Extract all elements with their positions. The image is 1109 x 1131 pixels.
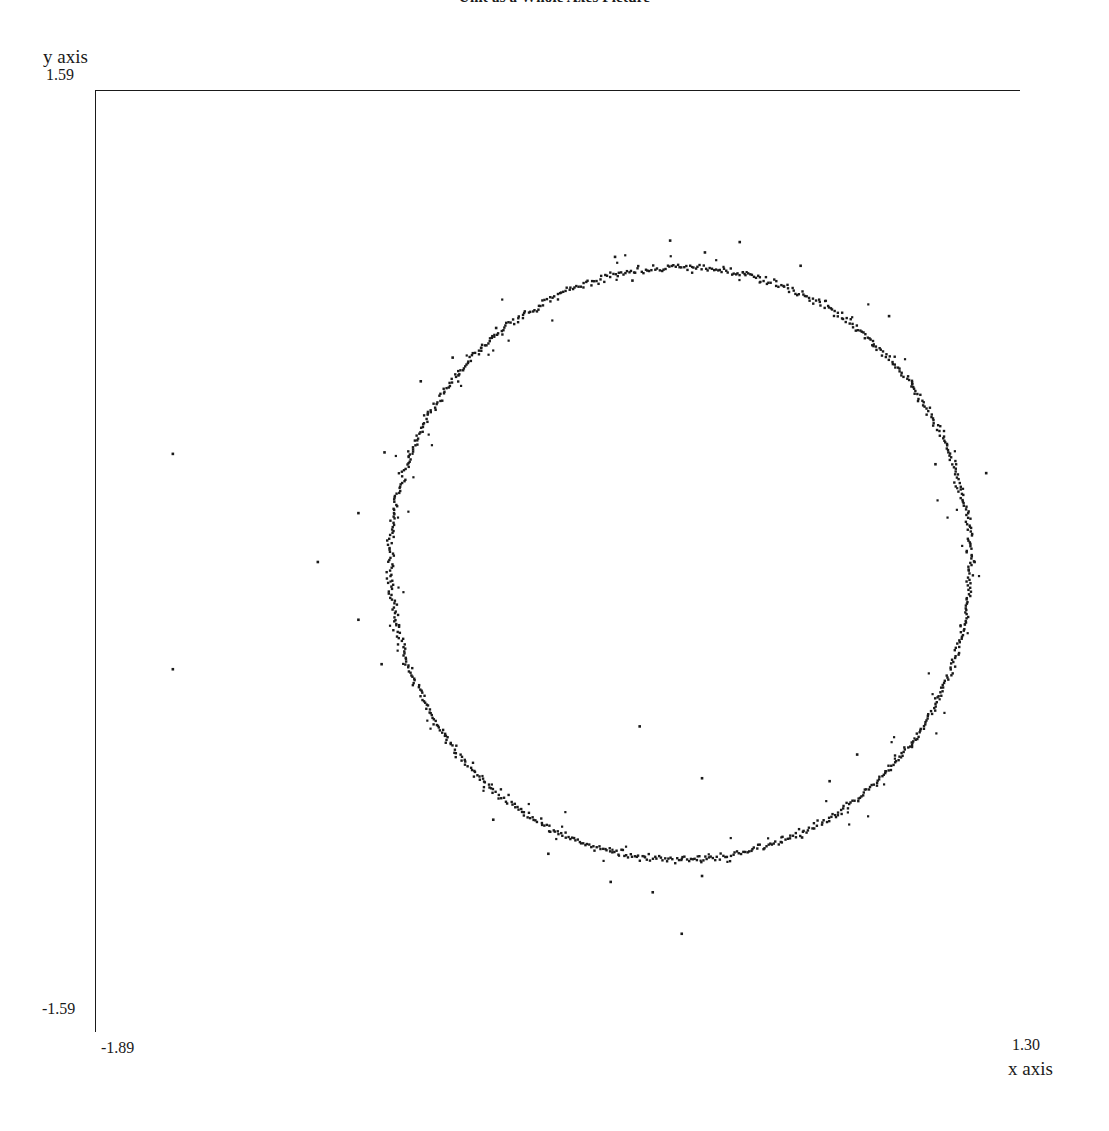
plot-frame: [95, 90, 1020, 1032]
x-axis-min-tick-label: -1.89: [101, 1039, 134, 1057]
x-axis-max-tick-label: 1.30: [1012, 1036, 1040, 1054]
scatter-plot-canvas: [96, 91, 1021, 1033]
y-axis-min-tick-label: -1.59: [42, 1000, 75, 1018]
plot-title: Unit as a Whole Axes Picture: [0, 0, 1109, 6]
x-axis-label: x axis: [1008, 1058, 1053, 1080]
y-axis-max-tick-label: 1.59: [46, 66, 74, 84]
y-axis-label: y axis: [43, 46, 88, 68]
